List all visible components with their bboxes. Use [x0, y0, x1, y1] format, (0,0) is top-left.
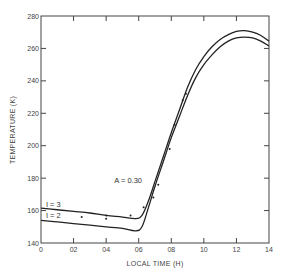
observation-point — [143, 206, 145, 208]
observation-point — [174, 124, 176, 126]
x-tick-label: 08 — [167, 246, 175, 253]
y-tick-label: 240 — [27, 77, 39, 84]
observation-point — [185, 93, 187, 95]
observation-point — [81, 216, 83, 218]
y-tick-label: 180 — [27, 175, 39, 182]
x-tick-label: 12 — [233, 246, 241, 253]
tick-labels: 002040608101214140160180200220240260280 — [27, 13, 273, 254]
x-axis-title: LOCAL TIME (H) — [126, 260, 183, 268]
series-line-i3 — [41, 31, 269, 219]
observation-point — [105, 218, 107, 220]
annotation-label: A = 0.30 — [114, 176, 142, 185]
observation-point — [182, 99, 184, 101]
observation-point — [105, 214, 107, 216]
x-tick-label: 14 — [265, 246, 273, 253]
y-axis-title: TEMPERATURE (K) — [9, 96, 17, 164]
y-tick-label: 140 — [27, 240, 39, 247]
y-tick-label: 260 — [27, 45, 39, 52]
x-tick-label: 0 — [39, 246, 43, 253]
series-line-i2 — [41, 37, 269, 231]
observation-points — [81, 93, 187, 220]
x-tick-label: 10 — [200, 246, 208, 253]
x-tick-label: 02 — [70, 246, 78, 253]
axis-ticks — [41, 16, 269, 243]
temperature-chart: TEMPERATURE (K) LOCAL TIME (H) 002040608… — [0, 0, 286, 278]
series-lines — [41, 31, 269, 231]
y-tick-label: 220 — [27, 110, 39, 117]
x-tick-label: 04 — [102, 246, 110, 253]
y-axis-label: TEMPERATURE (K) — [9, 96, 17, 164]
annotation-label: I = 2 — [46, 211, 61, 220]
observation-point — [157, 184, 159, 186]
x-tick-label: 06 — [135, 246, 143, 253]
annotation-label: I = 3 — [46, 200, 61, 209]
observation-point — [169, 148, 171, 150]
observation-point — [152, 197, 154, 199]
y-tick-label: 200 — [27, 142, 39, 149]
plot-frame — [41, 16, 269, 243]
observation-point — [130, 214, 132, 216]
y-tick-label: 160 — [27, 207, 39, 214]
y-tick-label: 280 — [27, 13, 39, 20]
